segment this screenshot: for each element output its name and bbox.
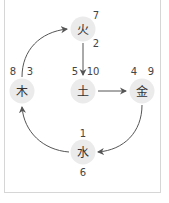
node-fire-number-bottom: 2 [93, 38, 99, 49]
node-water-label: 水 [77, 146, 89, 160]
node-fire-number-top: 7 [93, 10, 99, 21]
node-wood-number-right: 3 [27, 66, 33, 77]
edge-metal-to-water [98, 105, 142, 152]
node-metal-number-right: 9 [148, 66, 154, 77]
node-metal-number-left: 4 [131, 66, 137, 77]
node-earth: 土 5 10 [71, 66, 100, 104]
node-earth-label: 土 [77, 85, 89, 99]
node-water-number-bottom: 6 [80, 167, 86, 178]
node-earth-number-left: 5 [72, 66, 78, 77]
node-metal: 金 4 9 [130, 66, 155, 104]
node-earth-number-right: 10 [87, 66, 100, 77]
node-water: 水 1 6 [71, 128, 96, 178]
node-metal-label: 金 [136, 84, 148, 99]
edge-water-to-wood [22, 107, 69, 152]
node-water-number-top: 1 [80, 128, 86, 139]
node-wood-number-left: 8 [10, 66, 16, 77]
node-fire: 火 7 2 [71, 10, 100, 49]
node-fire-label: 火 [77, 23, 89, 37]
node-wood-label: 木 [16, 85, 28, 99]
five-elements-diagram: 火 7 2 土 5 10 木 8 3 金 4 9 水 1 6 [0, 0, 169, 203]
